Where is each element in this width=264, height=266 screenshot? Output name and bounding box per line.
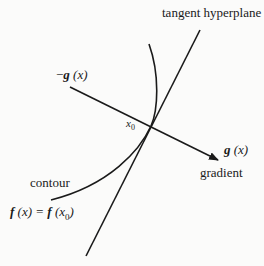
diagram-lines xyxy=(0,0,264,266)
gradient-arrow xyxy=(70,87,218,160)
equation-lhs: (x) = xyxy=(18,204,48,219)
close-paren: ) xyxy=(70,204,74,219)
x0-subscript: 0 xyxy=(131,123,135,132)
contour-label: contour xyxy=(30,176,70,189)
x-argument: (x) xyxy=(73,67,87,82)
x-argument: (x) xyxy=(234,142,248,157)
f-symbol: f xyxy=(10,204,14,219)
f-symbol: f xyxy=(47,204,51,219)
g-symbol: g xyxy=(63,67,70,82)
diagram-canvas: tangent hyperplane −g (x) x0 g (x) gradi… xyxy=(0,0,264,266)
gradient-label: gradient xyxy=(200,166,243,179)
g-symbol: g xyxy=(224,142,231,157)
negative-gradient-label: −g (x) xyxy=(56,68,88,81)
contour-equation-label: f (x) = f (x0) xyxy=(10,205,74,222)
x0-point-label: x0 xyxy=(126,118,135,132)
tangent-hyperplane-label: tangent hyperplane xyxy=(162,6,261,19)
equation-rhs: (x xyxy=(55,204,65,219)
gradient-vector-label: g (x) xyxy=(224,143,248,156)
